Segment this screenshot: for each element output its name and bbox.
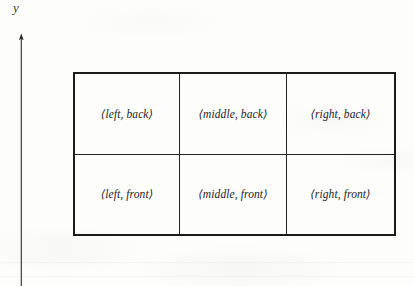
y-axis-arrow-icon bbox=[17, 33, 26, 286]
figure-canvas: y ⟨left, back⟩ ⟨middle, back⟩ ⟨right, ba… bbox=[0, 0, 414, 286]
scan-bleed-artifact bbox=[0, 262, 414, 263]
cell-label: ⟨middle, front⟩ bbox=[198, 187, 267, 201]
cell-label: ⟨left, back⟩ bbox=[101, 107, 153, 121]
cell-left-back: ⟨left, back⟩ bbox=[74, 73, 180, 154]
cell-label: ⟨left, front⟩ bbox=[101, 187, 154, 201]
cell-right-back: ⟨right, back⟩ bbox=[287, 73, 396, 154]
table-row: ⟨left, back⟩ ⟨middle, back⟩ ⟨right, back… bbox=[74, 73, 395, 154]
scan-bleed-artifact bbox=[0, 276, 414, 277]
cell-middle-back: ⟨middle, back⟩ bbox=[180, 73, 287, 154]
table-body: ⟨left, back⟩ ⟨middle, back⟩ ⟨right, back… bbox=[74, 73, 395, 235]
position-grid-table: ⟨left, back⟩ ⟨middle, back⟩ ⟨right, back… bbox=[73, 72, 396, 236]
cell-label: ⟨right, front⟩ bbox=[310, 187, 370, 201]
y-axis-label: y bbox=[13, 1, 19, 14]
cell-left-front: ⟨left, front⟩ bbox=[74, 154, 180, 235]
cell-label: ⟨right, back⟩ bbox=[310, 107, 370, 121]
table-row: ⟨left, front⟩ ⟨middle, front⟩ ⟨right, fr… bbox=[74, 154, 395, 235]
cell-middle-front: ⟨middle, front⟩ bbox=[180, 154, 287, 235]
cell-label: ⟨middle, back⟩ bbox=[198, 107, 267, 121]
cell-right-front: ⟨right, front⟩ bbox=[287, 154, 396, 235]
